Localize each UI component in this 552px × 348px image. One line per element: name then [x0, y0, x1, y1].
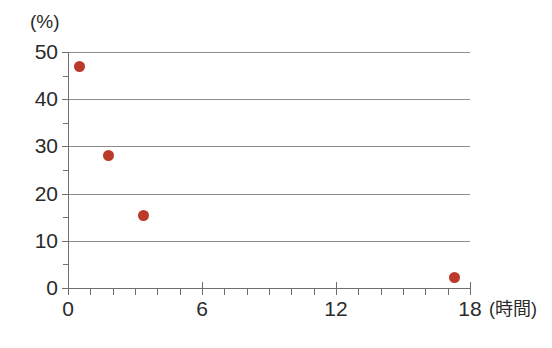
x-axis-tick-minor	[314, 289, 315, 295]
scatter-chart: (%) (時間) 50403020100 061218	[0, 0, 552, 348]
x-axis-tick-minor	[448, 289, 449, 295]
x-axis-tick-label: 0	[48, 298, 88, 319]
x-axis-tick-minor	[381, 289, 382, 295]
x-axis-unit-label: (時間)	[489, 300, 537, 318]
y-axis-tick-label: 10	[2, 230, 58, 251]
x-axis-tick-minor	[135, 289, 136, 295]
y-axis-tick-label: 20	[2, 183, 58, 204]
plot-area	[68, 52, 470, 288]
data-point	[138, 210, 149, 221]
x-axis-tick-major	[470, 282, 471, 295]
y-axis-tick-label: 50	[2, 41, 58, 62]
x-axis-tick-minor	[291, 289, 292, 295]
y-axis-tick-label: 30	[2, 135, 58, 156]
data-point	[103, 150, 114, 161]
x-axis-tick-label: 12	[316, 298, 356, 319]
x-axis-tick-minor	[247, 289, 248, 295]
x-axis-tick-minor	[157, 289, 158, 295]
y-axis-unit-label: (%)	[30, 12, 60, 31]
data-point	[74, 61, 85, 72]
y-axis-tick-label: 0	[2, 277, 58, 298]
x-axis-tick-minor	[113, 289, 114, 295]
y-axis-tick-label: 40	[2, 88, 58, 109]
x-axis-tick-minor	[90, 289, 91, 295]
x-axis-tick-minor	[224, 289, 225, 295]
x-axis-tick-label: 6	[182, 298, 222, 319]
data-point	[449, 272, 460, 283]
x-axis-tick-minor	[269, 289, 270, 295]
x-axis-tick-minor	[425, 289, 426, 295]
x-axis-tick-minor	[358, 289, 359, 295]
x-axis-tick-label: 18	[450, 298, 490, 319]
x-axis-tick-minor	[180, 289, 181, 295]
x-axis-tick-minor	[403, 289, 404, 295]
